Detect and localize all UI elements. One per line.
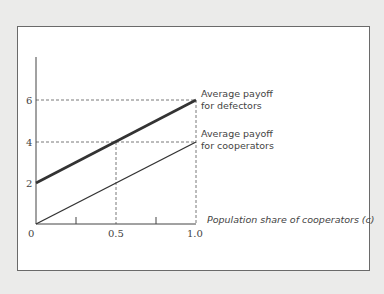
- cooperators-label-line2: for cooperators: [201, 140, 274, 151]
- payoff-chart: 6 4 2 0 0.5 1.0 Average payoff for defec…: [0, 0, 384, 294]
- x-tick-label: 0: [28, 228, 34, 239]
- y-tick-label: 4: [26, 137, 32, 148]
- x-axis-label: Population share of cooperators (c): [207, 214, 375, 225]
- cooperators-label-line1: Average payoff: [201, 128, 273, 139]
- y-tick-label: 2: [26, 178, 32, 189]
- y-tick-label: 6: [26, 95, 32, 106]
- x-tick-label: 1.0: [187, 228, 203, 239]
- defectors-label-line1: Average payoff: [201, 88, 273, 99]
- defectors-label-line2: for defectors: [201, 100, 262, 111]
- x-tick-label: 0.5: [108, 228, 124, 239]
- defectors-line: [36, 100, 196, 183]
